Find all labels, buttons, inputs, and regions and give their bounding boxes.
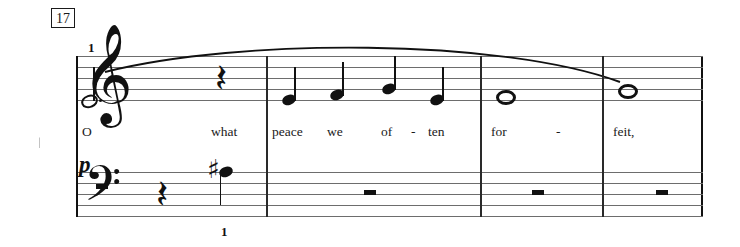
note-stem	[93, 67, 95, 101]
lyric-syllable: -	[411, 124, 416, 140]
lyric-syllable: what	[211, 124, 237, 140]
barline	[602, 56, 604, 217]
barline	[266, 56, 268, 217]
lyric-syllable: -	[556, 124, 561, 140]
whole-rest-icon[interactable]	[532, 190, 544, 195]
note-stem	[442, 67, 444, 101]
slur-phrase-mark	[100, 44, 640, 89]
measure-number-box: 17	[51, 8, 75, 28]
quarter-rest-icon[interactable]: 𝄽	[156, 174, 168, 214]
sharp-accidental-icon[interactable]: ♯	[207, 156, 220, 182]
lyric-syllable: feit,	[613, 124, 634, 140]
barline	[480, 56, 482, 217]
note-stem	[220, 172, 222, 205]
note-stem	[342, 62, 344, 96]
whole-rest-icon[interactable]	[364, 190, 376, 195]
staff-line	[78, 172, 703, 173]
quarter-rest-icon[interactable]: 𝄽	[215, 58, 227, 98]
fingering-number: 1	[88, 40, 95, 56]
lyric-syllable: of	[381, 124, 392, 140]
lyric-syllable: ten	[428, 124, 445, 140]
notehead[interactable]	[496, 90, 516, 105]
dynamic-piano: p	[79, 152, 91, 178]
lyric-syllable: we	[327, 124, 343, 140]
half-rest-icon[interactable]	[96, 184, 108, 189]
lyric-syllable: O	[82, 124, 92, 140]
system-brace: {	[14, 50, 40, 222]
staff-line	[78, 100, 703, 101]
staff-line	[78, 216, 703, 217]
staff-line	[78, 183, 703, 184]
whole-rest-icon[interactable]	[656, 190, 668, 195]
sheet-music-canvas: 17 { 𝄞 𝄢 p 𝄽 𝄽♯ Owhatpeaceweof-tenfor-fe…	[0, 0, 740, 247]
staff-line	[78, 205, 703, 206]
note-stem	[294, 67, 296, 101]
fingering-number: 1	[221, 224, 228, 240]
note-stem	[394, 56, 396, 90]
lyric-syllable: peace	[272, 124, 303, 140]
bass-staff	[78, 172, 703, 217]
staff-line	[78, 194, 703, 195]
lyric-syllable: for	[491, 124, 507, 140]
